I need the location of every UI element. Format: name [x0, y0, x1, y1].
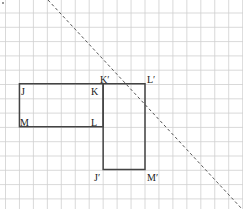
rectangle-j-prime-k-prime-l-prime-m-prime — [103, 84, 145, 170]
label-l-prime: L′ — [147, 74, 155, 85]
corner-mark — [2, 2, 4, 4]
label-k: K — [91, 86, 99, 97]
reflection-diagram: J K L M K′ L′ M′ J′ — [0, 0, 243, 209]
label-j-prime: J′ — [94, 172, 100, 183]
label-m: M — [20, 117, 29, 128]
label-l: L — [91, 117, 97, 128]
label-j: J — [21, 86, 25, 97]
label-m-prime: M′ — [147, 172, 158, 183]
grid — [0, 0, 243, 209]
label-k-prime: K′ — [100, 74, 109, 85]
